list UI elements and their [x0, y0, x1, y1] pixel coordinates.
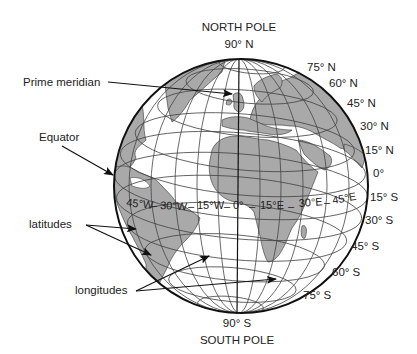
svg-text:–: –	[151, 199, 158, 211]
svg-text:–: –	[288, 200, 295, 212]
latitude-label: 45° N	[347, 97, 376, 110]
north-pole-value: 90° N	[179, 38, 299, 51]
longitude-label: 0°	[233, 199, 244, 211]
equator-label: Equator	[39, 131, 79, 144]
prime-meridian-label: Prime meridian	[23, 76, 100, 89]
latitude-label: 15° S	[370, 191, 398, 204]
longitude-label: 30°E	[298, 195, 323, 209]
land-madagascar	[301, 226, 306, 239]
latitude-label: 75° N	[307, 61, 336, 74]
latitude-label: 15° N	[365, 144, 394, 157]
longitude-label: 15°W	[197, 199, 225, 211]
svg-text:–: –	[324, 196, 331, 208]
svg-text:–: –	[224, 200, 231, 212]
latitudes-label: latitudes	[29, 218, 72, 231]
latitude-label: 30° S	[365, 214, 393, 227]
south-pole-title: SOUTH POLE	[177, 334, 297, 347]
svg-text:–: –	[188, 200, 195, 212]
longitude-label: 30°W	[160, 199, 188, 212]
latitude-label: 60° S	[332, 266, 360, 279]
south-pole-value: 90° S	[177, 317, 297, 330]
equator-arrow	[62, 146, 113, 175]
latitude-label: 0°	[373, 167, 384, 180]
globe-svg: 45°W 30°W 15°W 0° 15°E 30°E 45°E – – – –…	[0, 0, 417, 354]
longitude-label: 15°E	[260, 199, 284, 211]
globe-diagram: 45°W 30°W 15°W 0° 15°E 30°E 45°E – – – –…	[0, 0, 417, 354]
latitude-label: 60° N	[329, 77, 358, 90]
svg-text:–: –	[249, 200, 256, 212]
latitude-label: 75° S	[303, 289, 331, 302]
longitudes-label: longitudes	[75, 284, 127, 297]
latitude-label: 45° S	[351, 240, 379, 253]
latitude-label: 30° N	[360, 120, 389, 133]
north-pole-title: NORTH POLE	[179, 21, 299, 34]
land-ireland	[226, 99, 232, 105]
